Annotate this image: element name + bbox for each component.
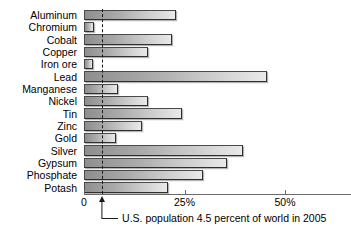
reference-line (102, 9, 103, 194)
bar-row (84, 108, 351, 120)
category-axis-labels: AluminumChromiumCobaltCopperIron oreLead… (0, 9, 80, 194)
x-axis-tick (285, 190, 286, 195)
category-label: Tin (0, 108, 80, 120)
plot-area (84, 9, 351, 194)
bar-row (84, 132, 351, 144)
bar-row (84, 95, 351, 107)
bar (84, 133, 116, 143)
category-label: Lead (0, 71, 80, 83)
category-label: Gold (0, 132, 80, 144)
bar (84, 34, 172, 44)
bar-row (84, 71, 351, 83)
bar (84, 22, 94, 32)
category-label: Nickel (0, 95, 80, 107)
bar-row (84, 83, 351, 95)
bar-row (84, 145, 351, 157)
category-label: Silver (0, 145, 80, 157)
bar-row (84, 46, 351, 58)
bar-row (84, 21, 351, 33)
x-axis-tick-label: 0 (81, 196, 87, 208)
category-label: Iron ore (0, 58, 80, 70)
x-axis-tick (185, 190, 186, 195)
category-label: Copper (0, 46, 80, 58)
bar-row (84, 9, 351, 21)
bar-row (84, 182, 351, 194)
bar (84, 59, 93, 69)
bar (84, 145, 243, 155)
bar (84, 71, 267, 81)
category-label: Phosphate (0, 169, 80, 181)
bar (84, 182, 168, 192)
reference-leader-stem (101, 201, 102, 219)
category-label: Gypsum (0, 157, 80, 169)
category-label: Aluminum (0, 9, 80, 21)
bar (84, 96, 148, 106)
x-axis-tick-label: 50% (274, 196, 295, 208)
category-label: Manganese (0, 83, 80, 95)
x-axis-tick-label: 25% (174, 196, 195, 208)
bar-row (84, 58, 351, 70)
bar-row (84, 120, 351, 132)
bar-row (84, 34, 351, 46)
bar-chart: AluminumChromiumCobaltCopperIron oreLead… (0, 0, 351, 239)
x-axis-line (84, 194, 351, 195)
x-axis-tick (84, 190, 85, 195)
category-label: Potash (0, 182, 80, 194)
bar (84, 121, 142, 131)
reference-annotation-label: U.S. population 4.5 percent of world in … (122, 212, 326, 224)
category-label: Cobalt (0, 34, 80, 46)
bar (84, 47, 148, 57)
bar (84, 158, 227, 168)
bar-row (84, 157, 351, 169)
category-label: Chromium (0, 21, 80, 33)
bar-row (84, 169, 351, 181)
category-label: Zinc (0, 120, 80, 132)
bar (84, 108, 182, 118)
bar (84, 10, 176, 20)
reference-leader-elbow (102, 218, 118, 219)
bar (84, 84, 118, 94)
